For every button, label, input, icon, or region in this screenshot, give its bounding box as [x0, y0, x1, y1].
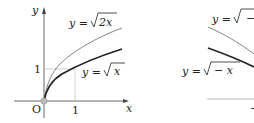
svg-text:y =: y = [68, 17, 88, 30]
label-sqrt-neg-2x: y = − [211, 9, 254, 26]
svg-text:− x: − x [214, 64, 234, 77]
svg-text:2x: 2x [98, 16, 113, 29]
y-axis-arrow-icon [42, 7, 46, 14]
svg-text:x: x [114, 65, 121, 78]
label-sqrt-2x: y = 2x [68, 13, 117, 30]
svg-text:−: − [246, 12, 254, 25]
svg-text:y =: y = [211, 13, 231, 26]
y-axis-label: y [31, 4, 39, 17]
diagram-canvas: y x O 1 1 y = 2x y = x − y = − y = [0, 0, 254, 123]
x-tick-label: 1 [72, 104, 79, 117]
right-figure: − y = − y = − x [181, 9, 254, 115]
svg-text:y =: y = [81, 66, 101, 79]
origin-label: O [32, 103, 41, 116]
x-axis-label: x [126, 102, 133, 115]
origin-dot [41, 98, 47, 104]
label-sqrt-neg-x: y = − x [181, 62, 240, 78]
right-tick-label: − [250, 102, 254, 115]
label-sqrt-x: y = x [81, 63, 125, 79]
y-tick-label: 1 [34, 63, 41, 76]
svg-text:y =: y = [181, 65, 201, 78]
left-figure: y x O 1 1 y = 2x y = x [14, 4, 133, 118]
